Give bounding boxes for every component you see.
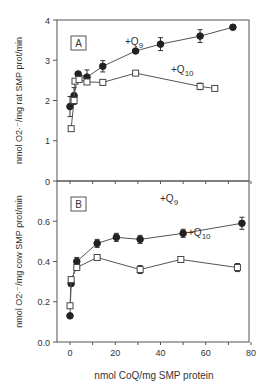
x-axis-label: nmol CoQ/mg SMP protein — [94, 370, 213, 381]
data-point-q10 — [234, 265, 240, 271]
q9-annotation: +Q9 — [160, 193, 179, 207]
data-point-q9 — [94, 240, 101, 247]
y-tick-label: 0.4 — [37, 257, 50, 267]
data-point-q10 — [76, 77, 82, 83]
y-tick-label: 1 — [45, 136, 50, 146]
data-point-q9 — [73, 258, 80, 265]
data-point-q10 — [100, 79, 106, 85]
data-point-q10 — [212, 85, 218, 91]
y-tick-label: 0.6 — [37, 217, 50, 227]
panel-label: A — [75, 38, 82, 49]
y-tick-label: 0.0 — [37, 338, 50, 348]
data-point-q10 — [68, 277, 74, 283]
data-point-q9 — [100, 63, 107, 70]
data-point-q10 — [137, 267, 143, 273]
data-point-q9 — [67, 313, 74, 320]
data-point-q10 — [94, 254, 100, 260]
data-point-q9 — [180, 230, 187, 237]
y-axis-label: nmol O2·⁻/mg rat SMP prot/min — [14, 37, 24, 164]
y-tick-label: 2 — [45, 96, 50, 106]
x-tick-label: 60 — [201, 348, 211, 358]
series-line — [70, 257, 237, 305]
x-tick-label: 20 — [110, 348, 120, 358]
series-line — [70, 223, 242, 316]
data-point-q10 — [197, 83, 203, 89]
data-point-q10 — [84, 79, 90, 85]
chart-figure: 01234nmol O2·⁻/mg rat SMP prot/minA+Q9+Q… — [0, 0, 268, 391]
panel-label: B — [75, 199, 82, 210]
x-tick-label: 0 — [67, 348, 72, 358]
data-point-q9 — [230, 24, 237, 31]
data-point-q9 — [197, 33, 204, 40]
y-tick-label: 3 — [45, 56, 50, 66]
data-point-q9 — [113, 234, 120, 241]
series-line — [70, 27, 233, 106]
data-point-q10 — [133, 70, 139, 76]
data-point-q9 — [157, 41, 164, 48]
y-tick-label: 0.2 — [37, 297, 50, 307]
data-point-q10 — [67, 303, 73, 309]
y-axis-label: nmol O2·⁻/mg cow SMP prot/min — [14, 195, 24, 327]
panel-a: 01234nmol O2·⁻/mg rat SMP prot/minA+Q9+Q… — [14, 16, 251, 187]
data-point-q10 — [68, 126, 74, 132]
x-tick-label: 80 — [246, 348, 256, 358]
data-point-q10 — [178, 256, 184, 262]
data-point-q10 — [71, 98, 77, 104]
x-tick-label: 40 — [155, 348, 165, 358]
data-point-q9 — [239, 220, 246, 227]
series-line — [71, 73, 215, 129]
data-point-q10 — [74, 265, 80, 271]
y-tick-label: 0 — [45, 177, 50, 187]
panel-b: 0.00.20.40.6020406080nmol O2·⁻/mg cow SM… — [14, 181, 256, 358]
q10-annotation: +Q10 — [171, 64, 194, 78]
y-tick-label: 4 — [45, 16, 50, 26]
data-point-q9 — [137, 236, 144, 243]
